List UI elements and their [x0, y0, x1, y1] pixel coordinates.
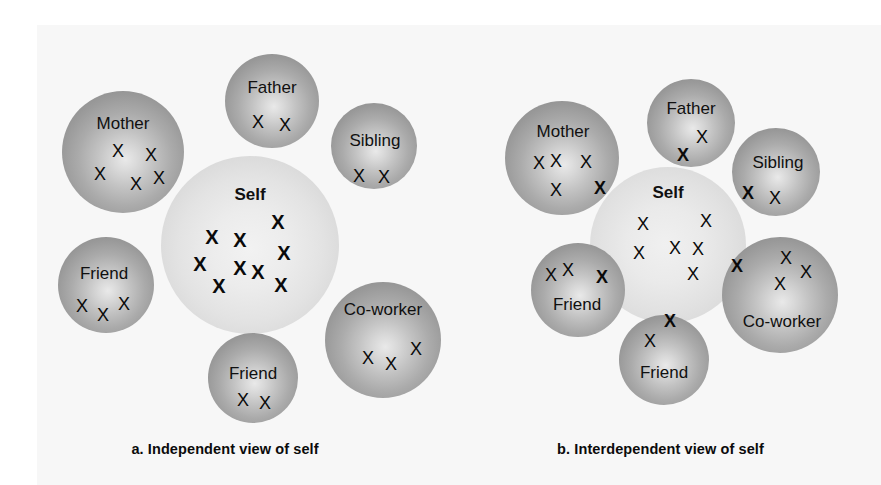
figure-canvas: a. Independent view of self b. Interdepe… — [0, 0, 881, 485]
panel-a-caption: a. Independent view of self — [0, 441, 450, 457]
panel-b-caption: b. Interdependent view of self — [440, 441, 881, 457]
panel-interdependent-view: b. Interdependent view of self — [440, 0, 881, 485]
panel-independent-view: a. Independent view of self — [0, 0, 450, 485]
